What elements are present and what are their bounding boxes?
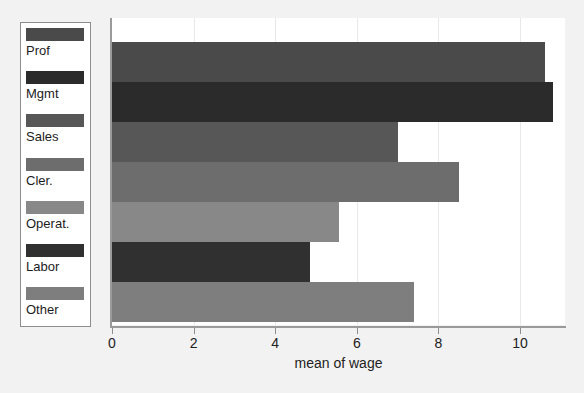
bar-mgmt bbox=[112, 82, 553, 122]
legend-item: Mgmt bbox=[21, 66, 90, 109]
legend-label: Operat. bbox=[26, 215, 69, 233]
x-axis-tick bbox=[112, 328, 113, 334]
plot-area bbox=[112, 18, 565, 325]
legend-label: Other bbox=[26, 301, 59, 319]
legend-swatch bbox=[26, 244, 84, 257]
x-axis-line bbox=[110, 326, 566, 328]
legend-swatch bbox=[26, 28, 84, 41]
x-axis-tick bbox=[357, 328, 358, 334]
bar-sales bbox=[112, 122, 398, 162]
bar-chart-figure: 0246810 mean of wage ProfMgmtSalesCler.O… bbox=[0, 0, 584, 393]
x-axis-tick bbox=[520, 328, 521, 334]
x-axis-tick-label: 4 bbox=[255, 335, 295, 351]
x-axis-tick-label: 8 bbox=[418, 335, 458, 351]
legend-label: Mgmt bbox=[26, 85, 59, 103]
bar-other bbox=[112, 282, 414, 322]
x-axis-tick bbox=[275, 328, 276, 334]
legend-swatch bbox=[26, 287, 84, 300]
bar-labor bbox=[112, 242, 310, 282]
legend-label: Cler. bbox=[26, 172, 53, 190]
legend-swatch bbox=[26, 158, 84, 171]
legend-swatch bbox=[26, 201, 84, 214]
legend-item: Sales bbox=[21, 109, 90, 152]
x-axis-tick-label: 2 bbox=[174, 335, 214, 351]
legend-item: Cler. bbox=[21, 153, 90, 196]
x-axis-tick-label: 6 bbox=[337, 335, 377, 351]
plot-panel bbox=[112, 18, 565, 325]
x-axis-title: mean of wage bbox=[112, 355, 565, 371]
legend-item: Other bbox=[21, 282, 90, 325]
legend-item: Operat. bbox=[21, 196, 90, 239]
bar-prof bbox=[112, 42, 545, 82]
legend-label: Sales bbox=[26, 128, 59, 146]
legend-label: Prof bbox=[26, 42, 50, 60]
legend-item: Labor bbox=[21, 239, 90, 282]
legend-label: Labor bbox=[26, 258, 59, 276]
x-axis-tick bbox=[194, 328, 195, 334]
bar-operat bbox=[112, 202, 339, 242]
x-axis-tick bbox=[438, 328, 439, 334]
x-axis-tick-label: 0 bbox=[92, 335, 132, 351]
y-axis-line bbox=[110, 18, 112, 327]
x-axis-tick-label: 10 bbox=[500, 335, 540, 351]
legend: ProfMgmtSalesCler.Operat.LaborOther bbox=[20, 22, 91, 327]
bar-cler bbox=[112, 162, 459, 202]
legend-swatch bbox=[26, 71, 84, 84]
legend-item: Prof bbox=[21, 23, 90, 66]
legend-swatch bbox=[26, 114, 84, 127]
